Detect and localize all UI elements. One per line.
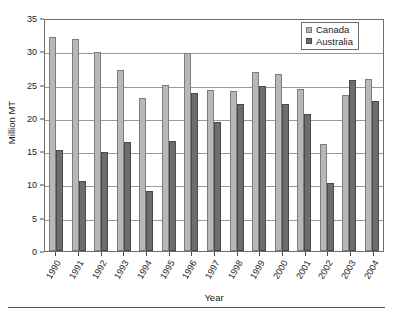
bar-group: [293, 20, 316, 251]
bar-australia-1994: [146, 191, 153, 251]
x-axis-tick-label: 1991: [68, 259, 86, 281]
bar-group: [225, 20, 248, 251]
bar-australia-1999: [259, 86, 266, 251]
footer-divider: [8, 307, 385, 308]
bar-group: [360, 20, 383, 251]
x-axis-tick-mark: [191, 252, 192, 256]
x-axis-tick-mark: [237, 252, 238, 256]
bar-group: [113, 20, 136, 251]
x-axis-label-cell: 1995: [157, 257, 180, 291]
x-axis-label-cell: 1997: [203, 257, 226, 291]
x-axis-tick-mark: [146, 252, 147, 256]
bar-group: [270, 20, 293, 251]
bar-groups: [45, 20, 383, 251]
bar-australia-2002: [327, 183, 334, 251]
legend-swatch-icon: [306, 38, 312, 44]
y-axis-tick-label: 15: [27, 148, 37, 157]
x-axis-tick-label: 2000: [272, 259, 290, 281]
bar-australia-1992: [101, 152, 108, 251]
x-axis-tick-label: 1995: [159, 259, 177, 281]
bar-group: [135, 20, 158, 251]
x-axis-tick-label: 1997: [204, 259, 222, 281]
x-axis-label-cell: 1991: [67, 257, 90, 291]
x-axis-tick-mark: [259, 252, 260, 256]
x-axis-title: Year: [44, 292, 384, 303]
x-axis-labels: 1990199119921993199419951996199719981999…: [44, 257, 384, 291]
legend-swatch-icon: [306, 27, 312, 33]
x-axis-label-cell: 2004: [361, 257, 384, 291]
bar-group: [248, 20, 271, 251]
x-axis-label-cell: 1996: [180, 257, 203, 291]
bar-group: [68, 20, 91, 251]
bar-group: [45, 20, 68, 251]
x-axis-tick-mark: [123, 252, 124, 256]
x-axis-label-cell: 1992: [89, 257, 112, 291]
legend-entry-canada: Canada: [306, 25, 353, 35]
y-axis: 35302520151050: [0, 19, 44, 252]
x-axis-tick-mark: [214, 252, 215, 256]
x-axis-tick-label: 1993: [113, 259, 131, 281]
bar-canada-1990: [49, 37, 56, 251]
x-axis-tick-label: 2003: [340, 259, 358, 281]
bar-australia-1997: [214, 122, 221, 251]
x-axis-label-cell: 2001: [293, 257, 316, 291]
y-axis-tick-label: 5: [32, 214, 37, 223]
bar-group: [338, 20, 361, 251]
y-axis-tick-label: 0: [32, 248, 37, 257]
x-axis-label-cell: 1999: [248, 257, 271, 291]
x-axis-label-cell: 2002: [316, 257, 339, 291]
bar-australia-1990: [56, 150, 63, 251]
bar-australia-2000: [282, 104, 289, 251]
x-axis-tick-label: 1990: [45, 259, 63, 281]
bar-australia-1996: [191, 93, 198, 251]
bar-australia-2004: [372, 101, 379, 251]
bar-canada-2001: [297, 89, 304, 251]
bar-australia-1998: [237, 104, 244, 251]
x-axis-tick-mark: [282, 252, 283, 256]
legend-label: Canada: [316, 25, 349, 35]
x-axis-tick-mark: [169, 252, 170, 256]
bar-group: [315, 20, 338, 251]
bar-canada-2002: [320, 144, 327, 251]
chart-legend: CanadaAustralia: [301, 22, 359, 50]
legend-label: Australia: [316, 37, 353, 47]
legend-entry-australia: Australia: [306, 37, 353, 47]
x-axis-label-cell: 1993: [112, 257, 135, 291]
bar-canada-1994: [139, 98, 146, 251]
bar-canada-2003: [342, 95, 349, 251]
bar-australia-2003: [349, 80, 356, 251]
x-axis-tick-label: 1998: [227, 259, 245, 281]
bar-canada-1991: [72, 39, 79, 251]
x-axis-tick-label: 2002: [317, 259, 335, 281]
bar-australia-1993: [124, 142, 131, 251]
x-axis-tick-label: 2001: [295, 259, 313, 281]
x-axis-tick-label: 1992: [91, 259, 109, 281]
x-axis-tick-mark: [78, 252, 79, 256]
bar-group: [90, 20, 113, 251]
bar-australia-1995: [169, 141, 176, 251]
bar-canada-1999: [252, 72, 259, 251]
y-axis-tick-label: 30: [27, 48, 37, 57]
x-axis-tick-label: 1999: [249, 259, 267, 281]
x-axis-tick-mark: [327, 252, 328, 256]
x-axis-label-cell: 1994: [135, 257, 158, 291]
bar-chart-figure: Million MT 35302520151050 19901991199219…: [0, 0, 393, 314]
bar-canada-1998: [230, 91, 237, 251]
y-axis-tick-label: 35: [27, 15, 37, 24]
bar-group: [180, 20, 203, 251]
x-axis-tick-mark: [305, 252, 306, 256]
bar-canada-2004: [365, 79, 372, 251]
x-axis-tick-label: 1994: [136, 259, 154, 281]
bar-canada-1996: [184, 53, 191, 251]
x-axis-tick-mark: [350, 252, 351, 256]
y-axis-tick-label: 10: [27, 181, 37, 190]
bar-canada-1993: [117, 70, 124, 251]
bar-australia-1991: [79, 181, 86, 251]
bar-canada-1997: [207, 90, 214, 251]
bar-canada-1995: [162, 85, 169, 251]
x-axis-tick-label: 1996: [181, 259, 199, 281]
y-axis-tick-label: 25: [27, 81, 37, 90]
bar-canada-1992: [94, 52, 101, 251]
x-axis-label-cell: 2003: [339, 257, 362, 291]
plot-area: [44, 19, 384, 252]
